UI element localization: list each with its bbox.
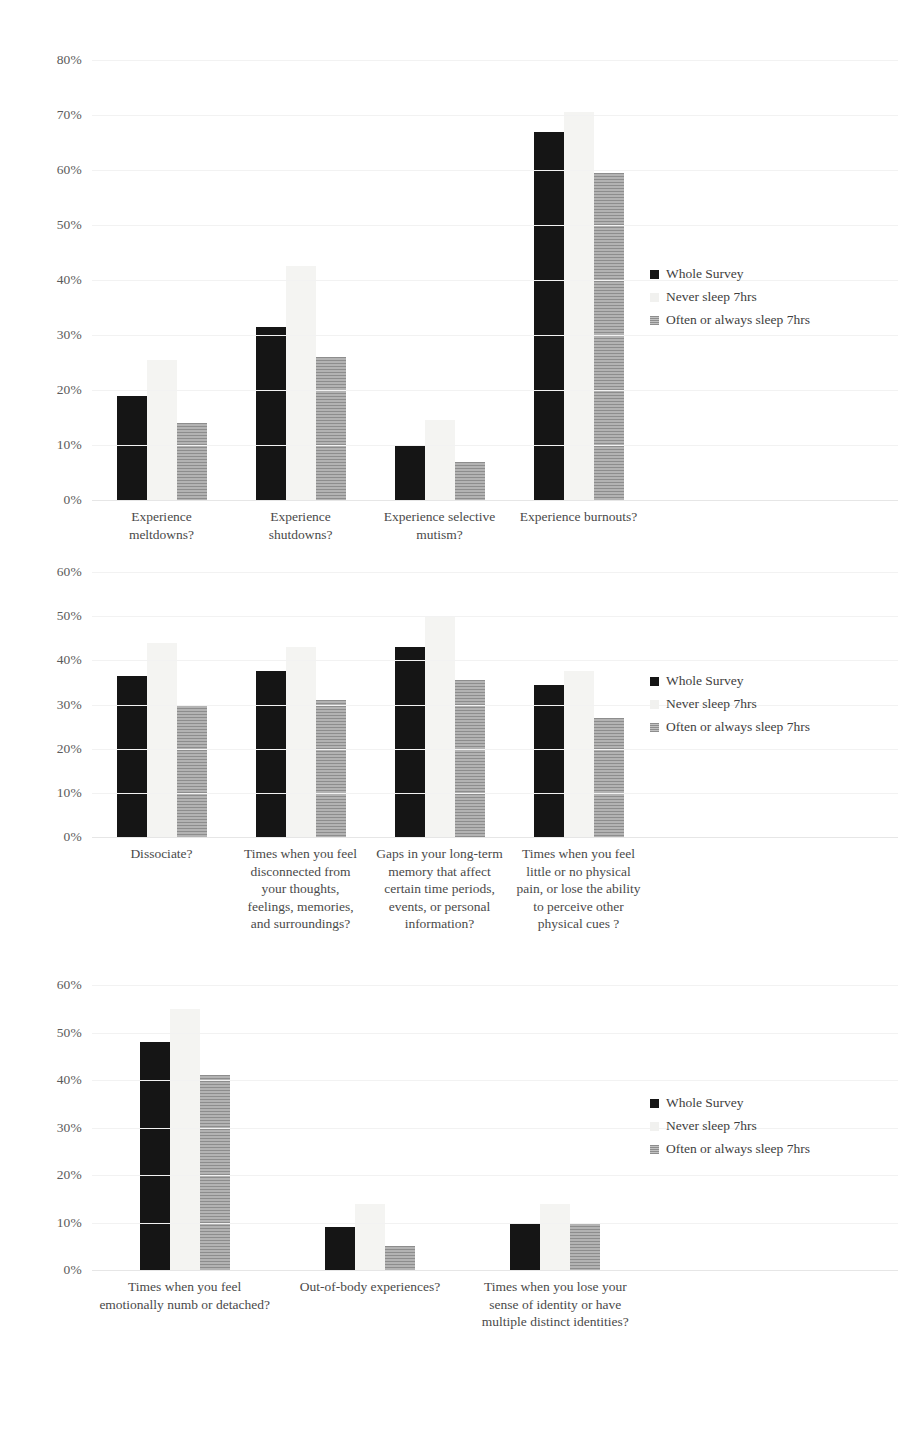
legend-item[interactable]: Often or always sleep 7hrs <box>650 719 880 735</box>
y-axis-3: 0%10%20%30%40%50%60% <box>0 985 92 1270</box>
grid-line <box>92 170 898 171</box>
bar-2[interactable] <box>177 423 207 500</box>
grid-line <box>92 225 898 226</box>
legend-swatch-icon <box>650 1122 659 1131</box>
bar-0[interactable] <box>117 396 147 501</box>
y-tick-label: 30% <box>57 1120 82 1136</box>
bar-0[interactable] <box>325 1227 355 1270</box>
legend-label: Never sleep 7hrs <box>666 1118 757 1134</box>
bar-2[interactable] <box>594 718 624 837</box>
legend-swatch-icon <box>650 723 659 732</box>
legend-swatch-icon <box>650 1099 659 1108</box>
legend-1: Whole SurveyNever sleep 7hrsOften or alw… <box>650 266 880 335</box>
legend-label: Often or always sleep 7hrs <box>666 312 810 328</box>
bar-1[interactable] <box>147 360 177 500</box>
legend-label: Whole Survey <box>666 673 744 689</box>
y-tick-label: 60% <box>57 977 82 993</box>
bar-2[interactable] <box>455 462 485 501</box>
legend-item[interactable]: Often or always sleep 7hrs <box>650 312 880 328</box>
bar-0[interactable] <box>256 327 286 500</box>
bar-1[interactable] <box>425 616 455 837</box>
y-tick-label: 50% <box>57 1025 82 1041</box>
y-tick-label: 30% <box>57 697 82 713</box>
bar-0[interactable] <box>395 647 425 837</box>
legend-swatch-icon <box>650 316 659 325</box>
legend-item[interactable]: Whole Survey <box>650 266 880 282</box>
grid-line <box>92 749 898 750</box>
legend-item[interactable]: Often or always sleep 7hrs <box>650 1141 880 1157</box>
legend-item[interactable]: Whole Survey <box>650 1095 880 1111</box>
y-tick-label: 40% <box>57 652 82 668</box>
bar-1[interactable] <box>355 1204 385 1271</box>
grid-line <box>92 1175 898 1176</box>
bar-2[interactable] <box>594 173 624 500</box>
bar-1[interactable] <box>425 420 455 500</box>
legend-item[interactable]: Never sleep 7hrs <box>650 1118 880 1134</box>
bar-2[interactable] <box>316 700 346 837</box>
legend-3: Whole SurveyNever sleep 7hrsOften or alw… <box>650 1095 880 1164</box>
x-axis-label: Experience shutdowns? <box>231 508 370 543</box>
x-axis-label: Dissociate? <box>92 845 231 933</box>
y-tick-label: 10% <box>57 785 82 801</box>
y-tick-label: 0% <box>64 492 82 508</box>
grid-line <box>92 115 898 116</box>
y-tick-label: 50% <box>57 608 82 624</box>
x-axis-label: Experience selective mutism? <box>370 508 509 543</box>
y-axis-1: 0%10%20%30%40%50%60%70%80% <box>0 60 92 500</box>
legend-item[interactable]: Whole Survey <box>650 673 880 689</box>
grid-line <box>92 572 898 573</box>
legend-swatch-icon <box>650 700 659 709</box>
y-tick-label: 40% <box>57 272 82 288</box>
bar-2[interactable] <box>316 357 346 500</box>
y-tick-label: 20% <box>57 1167 82 1183</box>
bar-2[interactable] <box>385 1246 415 1270</box>
bar-1[interactable] <box>147 643 177 837</box>
bar-2[interactable] <box>177 705 207 838</box>
y-tick-label: 40% <box>57 1072 82 1088</box>
y-tick-label: 50% <box>57 217 82 233</box>
bar-2[interactable] <box>570 1223 600 1271</box>
grid-line <box>92 60 898 61</box>
bar-1[interactable] <box>286 266 316 500</box>
x-axis-label: Experience meltdowns? <box>92 508 231 543</box>
x-axis-label: Gaps in your long-term memory that affec… <box>370 845 509 933</box>
grid-line <box>92 1033 898 1034</box>
legend-label: Whole Survey <box>666 1095 744 1111</box>
x-axis-label: Times when you lose your sense of identi… <box>463 1278 648 1331</box>
legend-2: Whole SurveyNever sleep 7hrsOften or alw… <box>650 673 880 742</box>
grid-line <box>92 390 898 391</box>
bar-1[interactable] <box>540 1204 570 1271</box>
y-tick-label: 80% <box>57 52 82 68</box>
legend-label: Whole Survey <box>666 266 744 282</box>
y-tick-label: 30% <box>57 327 82 343</box>
x-axis-labels-1: Experience meltdowns?Experience shutdown… <box>92 508 648 543</box>
legend-item[interactable]: Never sleep 7hrs <box>650 289 880 305</box>
bar-2[interactable] <box>200 1075 230 1270</box>
bar-0[interactable] <box>534 685 564 837</box>
y-axis-2: 0%10%20%30%40%50%60% <box>0 572 92 837</box>
y-tick-label: 10% <box>57 437 82 453</box>
autistic-traits-chart: 0%10%20%30%40%50%60%70%80% Experience me… <box>0 60 898 560</box>
grid-line <box>92 1080 898 1081</box>
axis-baseline <box>92 837 898 838</box>
x-axis-label: Times when you feel disconnected from yo… <box>231 845 370 933</box>
bar-0[interactable] <box>117 676 147 837</box>
bar-1[interactable] <box>286 647 316 837</box>
y-tick-label: 70% <box>57 107 82 123</box>
chart-page: 0%10%20%30%40%50%60%70%80% Experience me… <box>0 0 898 1446</box>
legend-swatch-icon <box>650 677 659 686</box>
bar-1[interactable] <box>170 1009 200 1270</box>
axis-baseline <box>92 1270 898 1271</box>
y-tick-label: 0% <box>64 1262 82 1278</box>
y-tick-label: 60% <box>57 564 82 580</box>
legend-swatch-icon <box>650 270 659 279</box>
bar-1[interactable] <box>564 671 594 837</box>
bar-0[interactable] <box>395 445 425 500</box>
legend-item[interactable]: Never sleep 7hrs <box>650 696 880 712</box>
x-axis-label: Times when you feel emotionally numb or … <box>92 1278 277 1331</box>
bar-0[interactable] <box>140 1042 170 1270</box>
bar-0[interactable] <box>256 671 286 837</box>
grid-line <box>92 616 898 617</box>
bar-0[interactable] <box>510 1223 540 1271</box>
grid-line <box>92 335 898 336</box>
